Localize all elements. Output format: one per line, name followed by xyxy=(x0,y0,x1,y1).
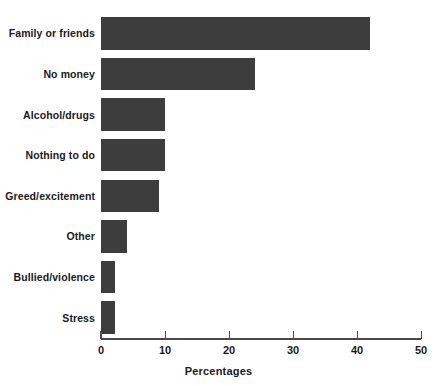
bar-row xyxy=(101,301,421,334)
category-label-row: Family or friends xyxy=(0,13,95,54)
category-label: Bullied/violence xyxy=(13,271,95,283)
plot-area xyxy=(101,13,421,338)
category-label: Family or friends xyxy=(9,27,95,39)
x-tick-mark xyxy=(165,331,166,339)
bar xyxy=(101,139,165,172)
bar xyxy=(101,220,127,253)
category-label-row: Stress xyxy=(0,297,95,338)
bar-row xyxy=(101,58,421,91)
bar-row xyxy=(101,220,421,253)
category-label-row: Bullied/violence xyxy=(0,257,95,298)
x-tick-mark xyxy=(229,331,230,339)
x-tick-label: 30 xyxy=(287,344,299,356)
x-axis-origin-cap xyxy=(100,331,102,339)
x-tick-label: 20 xyxy=(223,344,235,356)
bar-row xyxy=(101,139,421,172)
category-label-row: Greed/excitement xyxy=(0,176,95,217)
x-tick-label: 40 xyxy=(351,344,363,356)
bar-chart: Family or friendsNo moneyAlcohol/drugsNo… xyxy=(0,0,437,386)
x-tick-label: 0 xyxy=(98,344,104,356)
category-label: Alcohol/drugs xyxy=(23,109,95,121)
category-label: Stress xyxy=(62,312,95,324)
category-label-row: No money xyxy=(0,54,95,95)
bar xyxy=(101,301,115,334)
bar-row xyxy=(101,261,421,294)
bar xyxy=(101,17,370,50)
category-label: Nothing to do xyxy=(25,149,95,161)
category-label: Greed/excitement xyxy=(5,190,95,202)
category-label: Other xyxy=(66,230,95,242)
category-label-row: Nothing to do xyxy=(0,135,95,176)
category-label: No money xyxy=(43,68,95,80)
bar xyxy=(101,261,115,294)
bar xyxy=(101,180,159,213)
bar-row xyxy=(101,98,421,131)
category-label-row: Alcohol/drugs xyxy=(0,94,95,135)
x-tick-label: 50 xyxy=(415,344,427,356)
x-axis-line xyxy=(101,338,421,340)
category-label-row: Other xyxy=(0,216,95,257)
bar-row xyxy=(101,17,421,50)
x-tick-mark xyxy=(357,331,358,339)
x-tick-mark xyxy=(293,331,294,339)
x-axis-title: Percentages xyxy=(0,365,437,377)
bar xyxy=(101,98,165,131)
x-tick-label: 10 xyxy=(159,344,171,356)
category-axis-labels: Family or friendsNo moneyAlcohol/drugsNo… xyxy=(0,13,95,338)
bar xyxy=(101,58,255,91)
x-tick-mark xyxy=(421,331,422,339)
bar-row xyxy=(101,180,421,213)
